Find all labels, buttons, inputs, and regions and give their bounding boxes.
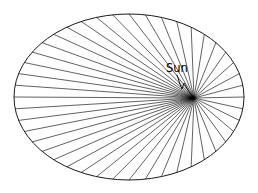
orbit-ray <box>194 98 216 151</box>
orbit-ray <box>97 98 194 177</box>
orbit-ray <box>32 52 194 98</box>
orbit-ray <box>194 97 244 98</box>
orbit-ray <box>194 98 204 160</box>
orbit-ray <box>81 22 194 99</box>
orbit-ray <box>19 98 194 120</box>
orbit-ray <box>145 15 194 98</box>
orbit-ray <box>113 15 194 98</box>
orbit-ray <box>194 74 239 98</box>
orbit-ray <box>145 98 194 179</box>
orbit-ray <box>161 98 194 177</box>
orbit-ray <box>161 17 194 98</box>
orbit-ray <box>32 98 194 142</box>
orbit-ray <box>97 17 194 98</box>
orbit-ray <box>194 34 204 98</box>
orbit-ray <box>14 97 194 98</box>
orbit-ray <box>15 85 194 98</box>
orbit-diagram-figure: Sun <box>0 0 258 193</box>
orbit-ray <box>113 98 194 179</box>
ray-group <box>14 14 244 180</box>
orbit-ray <box>194 43 216 98</box>
orbit-ray <box>194 98 243 109</box>
orbit-ray <box>194 98 226 142</box>
orbit-diagram-svg: Sun <box>0 0 258 193</box>
sun-label: Sun <box>166 61 188 75</box>
orbit-ray <box>67 98 194 167</box>
